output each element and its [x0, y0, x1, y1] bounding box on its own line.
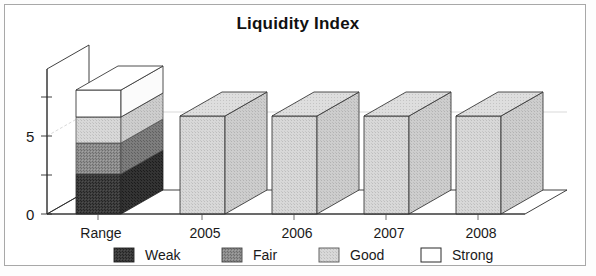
chart-legend: Weak Fair Good Strong [114, 247, 493, 263]
bar-range-stacked[interactable] [76, 66, 163, 214]
bar-2008[interactable] [456, 92, 543, 214]
legend-label-strong: Strong [452, 247, 493, 263]
x-label-2007: 2007 [373, 225, 404, 241]
bar-2006[interactable] [272, 92, 359, 214]
x-axis-labels: Range 2005 2006 2007 2008 [80, 225, 496, 241]
legend-swatch-good [319, 248, 339, 262]
y-tick-label-5: 5 [26, 128, 34, 145]
legend-label-good: Good [350, 247, 384, 263]
legend-item-fair[interactable]: Fair [222, 247, 277, 263]
legend-swatch-fair [222, 248, 242, 262]
legend-label-weak: Weak [145, 247, 182, 263]
x-label-2005: 2005 [189, 225, 220, 241]
y-tick-label-0: 0 [26, 206, 34, 223]
liquidity-index-3d-bar-chart: 5 0 [0, 0, 596, 276]
legend-label-fair: Fair [253, 247, 277, 263]
y-axis: 5 0 [26, 69, 52, 223]
chart-screenshot: Liquidity Index [0, 0, 596, 276]
legend-item-strong[interactable]: Strong [421, 247, 493, 263]
x-axis [47, 214, 525, 220]
x-label-range: Range [80, 225, 121, 241]
bar-2005[interactable] [180, 92, 267, 214]
legend-item-weak[interactable]: Weak [114, 247, 182, 263]
bar-2007[interactable] [364, 92, 451, 214]
legend-swatch-weak [114, 248, 134, 262]
x-label-2006: 2006 [281, 225, 312, 241]
legend-item-good[interactable]: Good [319, 247, 384, 263]
x-label-2008: 2008 [465, 225, 496, 241]
legend-swatch-strong [421, 248, 441, 262]
